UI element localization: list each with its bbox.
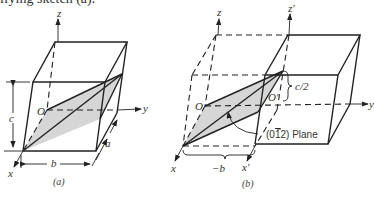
y-axis-arrow-a xyxy=(117,109,141,110)
z-axis-label-a: z xyxy=(56,7,62,19)
plane-label-close: 2) Plane xyxy=(280,129,318,140)
plane-label: (012) Plane xyxy=(266,129,318,140)
z-prime-axis-label: z' xyxy=(287,2,295,14)
figure-b: z z' y x x' O O' c/2 −b (012) Plane (b) xyxy=(170,2,374,190)
dim-a-line-upper xyxy=(110,120,117,133)
z-axis-arrow-b xyxy=(218,19,219,35)
dim-a-tick xyxy=(92,153,99,166)
z-axis-label-b: z xyxy=(216,6,222,18)
x-axis-label-a: x xyxy=(7,167,13,179)
neg-b-label: −b xyxy=(212,162,225,174)
y-axis-label-a: y xyxy=(142,102,148,114)
hidden-edge-z-a xyxy=(47,42,55,110)
origin-label-b: O xyxy=(195,100,203,112)
figure-a: z y x O c b a (a) xyxy=(4,7,148,188)
x-prime-axis-label: x' xyxy=(241,161,250,173)
half-c-label: c/2 xyxy=(295,80,309,92)
figure-a-caption: (a) xyxy=(53,176,65,188)
unit-cell-diagram: z y x O c b a (a) xyxy=(0,0,374,197)
x-axis-label-b: x xyxy=(170,162,176,174)
z-prime-axis-arrow xyxy=(289,14,290,35)
neg-b-brace xyxy=(183,150,255,159)
dashed-cell-back-left xyxy=(205,35,216,106)
origin-prime-label: O' xyxy=(268,91,279,103)
dim-c-label: c xyxy=(9,112,14,124)
y-axis-label-b: y xyxy=(368,98,374,110)
cell-top-edges-a xyxy=(33,42,127,82)
solid-cell-top-face xyxy=(265,35,360,75)
x-axis-arrow-b xyxy=(175,146,183,161)
x-prime-hidden xyxy=(255,110,277,146)
dim-a-label: a xyxy=(105,137,111,149)
dim-b-label: b xyxy=(51,157,57,169)
figure-b-caption: (b) xyxy=(242,178,254,190)
origin-label-a: O xyxy=(37,105,45,117)
x-axis-arrow-a xyxy=(14,151,23,167)
